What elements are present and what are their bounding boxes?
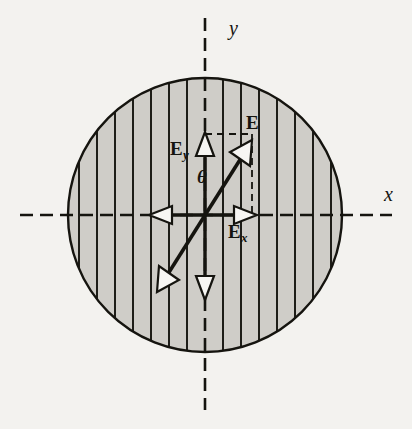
vector-Ex-label-main: E [228, 221, 241, 242]
vector-Ex-label-sub: x [241, 230, 248, 245]
vector-E-label: E [246, 113, 259, 132]
vector-Ey-label-sub: y [183, 147, 189, 162]
vector-Ey-label: Ey [170, 139, 189, 161]
vector-E-label-main: E [246, 112, 259, 133]
vector-Ex-label: Ex [228, 222, 247, 244]
vector-diagram-svg [0, 0, 412, 429]
x-axis-label: x [384, 184, 393, 204]
y-axis-label: y [229, 18, 238, 38]
angle-theta-label: θ [197, 167, 207, 186]
vector-Ey-label-main: E [170, 138, 183, 159]
figure-container: y x E Ey Ex θ [0, 0, 412, 429]
